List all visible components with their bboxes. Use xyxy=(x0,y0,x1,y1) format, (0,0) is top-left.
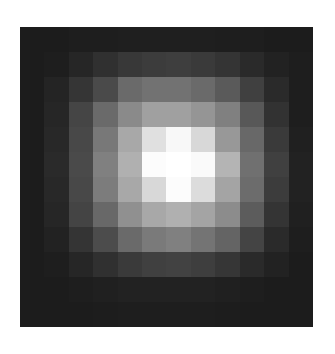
heatmap-cell xyxy=(240,202,264,227)
heatmap-cell xyxy=(166,52,190,77)
heatmap-cell xyxy=(44,27,68,52)
heatmap-cell xyxy=(191,227,215,252)
heatmap-cell xyxy=(44,252,68,277)
heatmap-cell xyxy=(166,252,190,277)
heatmap-cell xyxy=(93,177,117,202)
heatmap-cell xyxy=(166,202,190,227)
heatmap-cell xyxy=(142,227,166,252)
heatmap-cell xyxy=(93,277,117,302)
heatmap-cell xyxy=(142,302,166,327)
heatmap-cell xyxy=(93,152,117,177)
heatmap-cell xyxy=(289,277,313,302)
heatmap-cell xyxy=(240,77,264,102)
heatmap-cell xyxy=(118,152,142,177)
heatmap-cell xyxy=(44,277,68,302)
heatmap-cell xyxy=(240,102,264,127)
heatmap-cell xyxy=(118,227,142,252)
heatmap-cell xyxy=(44,152,68,177)
heatmap-cell xyxy=(69,52,93,77)
heatmap-cell xyxy=(142,252,166,277)
heatmap-cell xyxy=(69,302,93,327)
heatmap-cell xyxy=(264,102,288,127)
heatmap-cell xyxy=(240,302,264,327)
heatmap-cell xyxy=(20,52,44,77)
heatmap-cell xyxy=(118,252,142,277)
heatmap-cell xyxy=(289,152,313,177)
heatmap-cell xyxy=(215,102,239,127)
gaussian-heatmap xyxy=(20,27,313,327)
heatmap-cell xyxy=(191,127,215,152)
heatmap-cell xyxy=(215,52,239,77)
heatmap-cell xyxy=(191,77,215,102)
heatmap-cell xyxy=(166,152,190,177)
heatmap-cell xyxy=(44,227,68,252)
heatmap-cell xyxy=(166,77,190,102)
heatmap-cell xyxy=(289,177,313,202)
heatmap-cell xyxy=(240,227,264,252)
heatmap-cell xyxy=(264,252,288,277)
heatmap-cell xyxy=(44,127,68,152)
heatmap-cell xyxy=(20,177,44,202)
heatmap-cell xyxy=(118,77,142,102)
heatmap-cell xyxy=(191,202,215,227)
heatmap-cell xyxy=(264,152,288,177)
heatmap-cell xyxy=(44,52,68,77)
heatmap-cell xyxy=(191,27,215,52)
heatmap-cell xyxy=(118,52,142,77)
heatmap-cell xyxy=(142,202,166,227)
heatmap-cell xyxy=(93,52,117,77)
heatmap-cell xyxy=(93,302,117,327)
heatmap-cell xyxy=(289,27,313,52)
heatmap-cell xyxy=(142,52,166,77)
heatmap-cell xyxy=(191,277,215,302)
heatmap-cell xyxy=(69,102,93,127)
heatmap-cell xyxy=(240,52,264,77)
heatmap-cell xyxy=(69,177,93,202)
heatmap-cell xyxy=(69,252,93,277)
heatmap-cell xyxy=(215,27,239,52)
heatmap-cell xyxy=(289,302,313,327)
heatmap-cell xyxy=(240,27,264,52)
heatmap-cell xyxy=(215,202,239,227)
heatmap-cell xyxy=(142,27,166,52)
heatmap-cell xyxy=(191,252,215,277)
heatmap-cell xyxy=(264,302,288,327)
heatmap-cell xyxy=(20,252,44,277)
heatmap-cell xyxy=(166,102,190,127)
heatmap-cell xyxy=(289,202,313,227)
heatmap-cell xyxy=(93,252,117,277)
heatmap-cell xyxy=(215,252,239,277)
heatmap-cell xyxy=(240,177,264,202)
heatmap-cell xyxy=(264,127,288,152)
heatmap-cell xyxy=(215,127,239,152)
heatmap-cell xyxy=(191,152,215,177)
heatmap-cell xyxy=(142,277,166,302)
heatmap-cell xyxy=(166,27,190,52)
heatmap-cell xyxy=(166,177,190,202)
heatmap-cell xyxy=(93,127,117,152)
heatmap-cell xyxy=(215,152,239,177)
heatmap-cell xyxy=(142,152,166,177)
heatmap-cell xyxy=(264,177,288,202)
heatmap-cell xyxy=(142,127,166,152)
heatmap-cell xyxy=(44,177,68,202)
heatmap-cell xyxy=(20,77,44,102)
heatmap-cell xyxy=(118,27,142,52)
heatmap-cell xyxy=(20,27,44,52)
heatmap-cell xyxy=(69,202,93,227)
heatmap-cell xyxy=(289,102,313,127)
heatmap-cell xyxy=(93,77,117,102)
heatmap-cell xyxy=(215,177,239,202)
heatmap-cell xyxy=(142,177,166,202)
heatmap-cell xyxy=(69,152,93,177)
heatmap-cell xyxy=(289,127,313,152)
heatmap-cell xyxy=(69,127,93,152)
heatmap-cell xyxy=(166,227,190,252)
heatmap-cell xyxy=(264,27,288,52)
heatmap-cell xyxy=(264,227,288,252)
heatmap-cell xyxy=(44,102,68,127)
heatmap-cell xyxy=(191,52,215,77)
heatmap-cell xyxy=(215,277,239,302)
heatmap-cell xyxy=(191,177,215,202)
heatmap-cell xyxy=(118,177,142,202)
